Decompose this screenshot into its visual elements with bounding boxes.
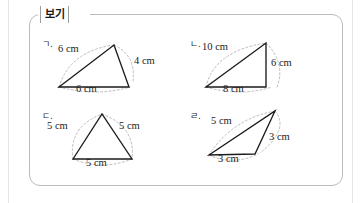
figure-marker-1: ㄱ. (42, 37, 53, 50)
bogi-box: 보기 ㄱ. 6 cm 4 cm 6 cm ㄴ. 10 cm 6 cm 8 cm … (29, 14, 343, 186)
figure-2-side-right-label: 6 cm (271, 57, 292, 68)
triangle-drawing-3 (30, 87, 187, 177)
figure-3-side-bottom-label: 5 cm (86, 157, 107, 168)
figure-4-side-left-label: 5 cm (211, 115, 232, 126)
figure-marker-4: ㄹ. (190, 109, 201, 122)
figure-1-side-left-label: 6 cm (58, 43, 79, 54)
figure-4-side-bottom-label: 3 cm (218, 153, 239, 164)
figure-2-side-left-label: 10 cm (202, 41, 228, 52)
triangle-drawing-4 (182, 87, 342, 177)
figure-3-side-right-label: 5 cm (119, 120, 140, 131)
figure-4-side-right-label: 3 cm (269, 131, 290, 142)
figure-item-4: ㄹ. 5 cm 3 cm 3 cm (182, 87, 342, 177)
page-margin-line-left (8, 0, 9, 203)
figure-3-side-left-label: 5 cm (47, 120, 68, 131)
figure-marker-2: ㄴ. (190, 37, 201, 50)
figure-1-side-right-label: 4 cm (134, 55, 155, 66)
figure-item-3: ㄷ. 5 cm 5 cm 5 cm (30, 87, 187, 177)
page-margin-line-right (352, 0, 353, 203)
